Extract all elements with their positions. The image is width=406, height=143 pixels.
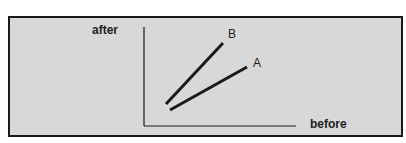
line-b-label: B xyxy=(228,27,236,41)
line-a-label: A xyxy=(253,56,261,70)
y-axis-label: after xyxy=(92,23,118,37)
x-axis-label: before xyxy=(310,117,347,131)
